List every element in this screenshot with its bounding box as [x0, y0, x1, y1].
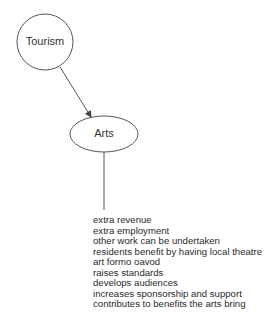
benefit-item: contributes to benefits the arts bring [93, 299, 262, 310]
tourism-to-arts-arrow [60, 67, 91, 117]
benefit-item: art formo oavod [93, 257, 262, 268]
arts-node-label: Arts [74, 127, 134, 139]
benefit-item: extra revenue [93, 215, 262, 226]
tourism-node-label: Tourism [17, 35, 73, 47]
benefits-list: extra revenue extra employment other wor… [93, 215, 262, 310]
benefit-item: develops audiences [93, 278, 262, 289]
benefit-item: other work can be undertaken [93, 236, 262, 247]
